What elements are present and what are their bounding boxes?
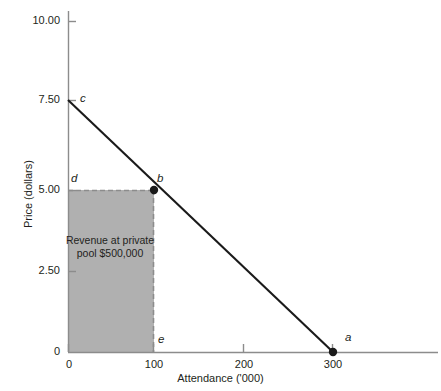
y-tick-label-0: 0 [8,345,60,357]
point-label-c: c [80,92,86,104]
y-tick-label-750: 7.50 [8,93,60,105]
x-tick-label-100: 100 [129,358,179,370]
point-a-marker [329,348,337,356]
demand-curve-chart [0,0,441,391]
y-tick-label-1000: 10.00 [8,14,60,26]
x-tick-label-0: 0 [44,358,94,370]
y-tick-label-500: 5.00 [8,183,60,195]
point-label-d: d [71,172,77,184]
point-label-a: a [345,331,351,343]
y-tick-label-250: 2.50 [8,264,60,276]
y-axis-title: Price (dollars) [22,160,34,228]
shaded-revenue-rectangle [68,190,154,352]
point-label-e: e [158,333,164,345]
x-axis-title: Attendance ('000) [0,372,441,384]
point-b-marker [150,186,158,194]
revenue-annotation: Revenue at private pool $500,000 [59,234,161,260]
x-tick-label-300: 300 [308,358,358,370]
point-label-b: b [157,172,163,184]
x-tick-label-200: 200 [219,358,269,370]
